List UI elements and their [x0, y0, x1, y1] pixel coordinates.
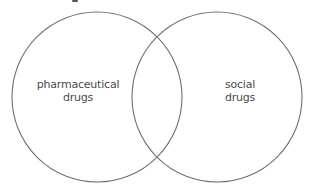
social-drugs-label: social drugs	[210, 78, 270, 104]
label-line: social	[210, 78, 270, 91]
label-line: drugs	[28, 91, 128, 104]
label-line: drugs	[210, 91, 270, 104]
label-line: pharmaceutical	[28, 78, 128, 91]
pharmaceutical-drugs-label: pharmaceutical drugs	[28, 78, 128, 104]
